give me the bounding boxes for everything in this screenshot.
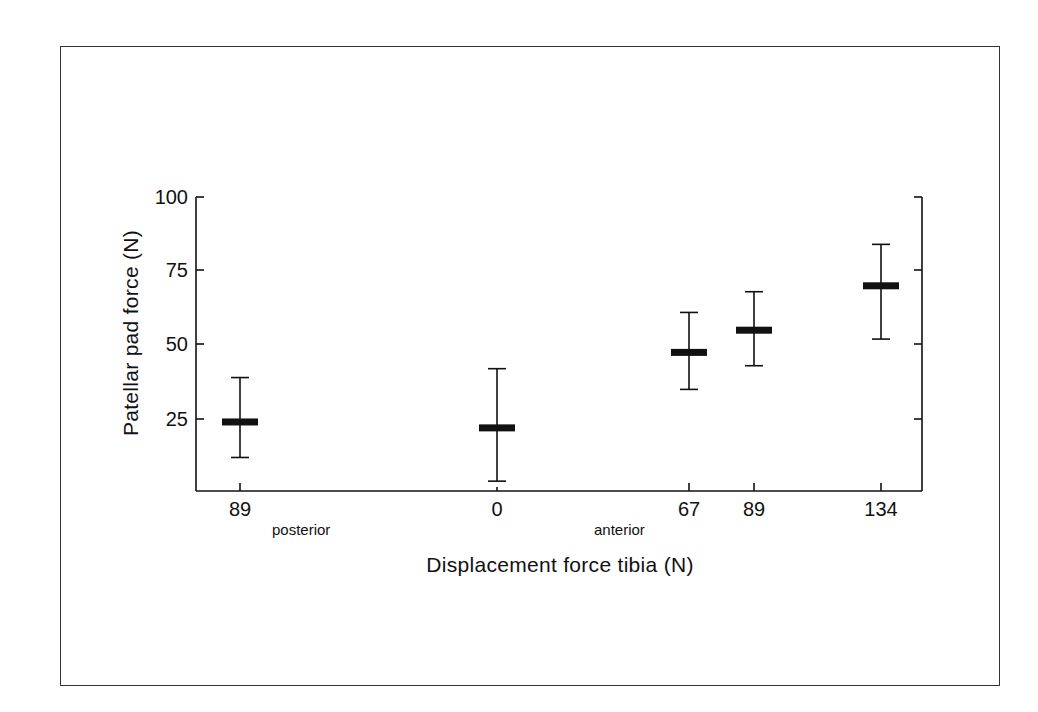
mean-marker bbox=[671, 349, 707, 356]
x-tick-label: 89 bbox=[229, 498, 251, 520]
x-axis-title: Displacement force tibia (N) bbox=[426, 553, 694, 576]
error-bar-point bbox=[863, 244, 899, 339]
y-axis-title: Patellar pad force (N) bbox=[119, 230, 142, 436]
data-points bbox=[222, 244, 899, 481]
axes bbox=[196, 197, 922, 491]
x-tick-label: 89 bbox=[743, 498, 765, 520]
error-bar-point bbox=[736, 292, 772, 366]
x-tick-label: 67 bbox=[678, 498, 700, 520]
error-bar-point bbox=[479, 369, 515, 481]
mean-marker bbox=[222, 418, 258, 425]
mean-marker bbox=[479, 424, 515, 431]
error-bar-point bbox=[222, 378, 258, 458]
mean-marker bbox=[863, 282, 899, 289]
mean-marker bbox=[736, 327, 772, 334]
error-bar-point bbox=[671, 312, 707, 389]
y-tick-label: 25 bbox=[166, 408, 188, 430]
chart-canvas: 100 75 50 25 89 0 67 89 134 posterior an… bbox=[0, 0, 1038, 712]
anterior-label: anterior bbox=[594, 521, 645, 538]
x-tick-label: 0 bbox=[491, 498, 502, 520]
x-tick-label: 134 bbox=[864, 498, 897, 520]
y-tick-label: 75 bbox=[166, 259, 188, 281]
y-tick-label: 100 bbox=[155, 186, 188, 208]
posterior-label: posterior bbox=[272, 521, 330, 538]
y-tick-label: 50 bbox=[166, 333, 188, 355]
